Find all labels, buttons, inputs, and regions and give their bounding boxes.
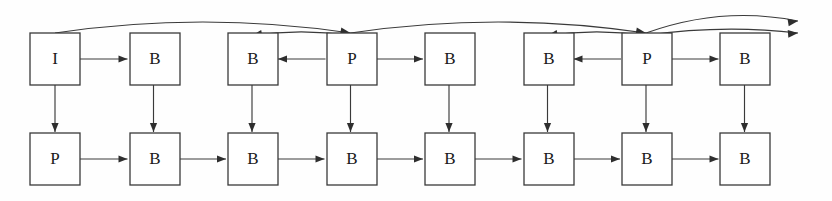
node-bottom-row-1-b[interactable]: B [130, 133, 180, 185]
node-label: B [641, 149, 652, 168]
arrowhead-top-row-3-2 [278, 55, 287, 62]
arrowhead-vertical-col-0 [51, 123, 58, 132]
node-bottom-row-6-b[interactable]: B [622, 133, 672, 185]
node-top-row-3-p[interactable]: P [327, 33, 377, 85]
node-label: B [149, 149, 160, 168]
node-label: B [149, 49, 160, 68]
arrowhead-vertical-col-7 [741, 123, 748, 132]
arrowhead-bottom-row-1-2 [217, 155, 226, 162]
arrowhead-top-row-3-4 [414, 55, 423, 62]
arrowhead-top-row-6-5 [574, 55, 583, 62]
arrowhead-top-row-6-7 [710, 55, 719, 62]
arrowhead-bottom-row-6-7 [710, 155, 719, 162]
node-top-row-1-b[interactable]: B [130, 33, 180, 85]
node-bottom-row-0-p[interactable]: P [30, 133, 80, 185]
arrowhead-arc-p2-to-right-b [788, 29, 799, 37]
node-label: B [346, 149, 357, 168]
node-bottom-row-3-b[interactable]: B [327, 133, 377, 185]
node-bottom-row-4-b[interactable]: B [425, 133, 475, 185]
arrowhead-arc-p2-to-right-a [788, 17, 799, 26]
node-box-layer: IBBPBBPBPBBBBBBB [30, 33, 770, 185]
arrowhead-bottom-row-4-5 [513, 155, 522, 162]
arrowhead-bottom-row-5-6 [611, 155, 620, 162]
node-top-row-5-b[interactable]: B [524, 33, 574, 85]
arrowhead-top-row-0-1 [119, 55, 128, 62]
arrowhead-vertical-col-5 [544, 123, 551, 132]
arrowhead-bottom-row-2-3 [316, 155, 325, 162]
node-bottom-row-5-b[interactable]: B [524, 133, 574, 185]
arrowhead-vertical-col-2 [248, 123, 255, 132]
node-top-row-0-i[interactable]: I [30, 33, 80, 85]
node-label: B [543, 149, 554, 168]
node-label: B [444, 149, 455, 168]
frame-dependency-diagram: IBBPBBPBPBBBBBBB [0, 0, 832, 201]
node-label: B [444, 49, 455, 68]
node-label: B [247, 49, 258, 68]
node-label: I [52, 49, 58, 68]
node-label: B [543, 49, 554, 68]
arrowhead-vertical-col-6 [642, 123, 649, 132]
node-top-row-4-b[interactable]: B [425, 33, 475, 85]
node-bottom-row-2-b[interactable]: B [228, 133, 278, 185]
node-label: P [50, 149, 59, 168]
node-label: P [347, 49, 356, 68]
node-label: P [642, 49, 651, 68]
node-top-row-2-b[interactable]: B [228, 33, 278, 85]
node-label: B [247, 149, 258, 168]
node-top-row-6-p[interactable]: P [622, 33, 672, 85]
node-top-row-7-b[interactable]: B [720, 33, 770, 85]
node-label: B [739, 49, 750, 68]
arc-p1-to-p2 [351, 22, 647, 33]
arrowhead-bottom-row-0-1 [119, 155, 128, 162]
arrowhead-vertical-col-1 [150, 123, 157, 132]
arrowhead-vertical-col-3 [347, 123, 354, 132]
node-label: B [739, 149, 750, 168]
arrowhead-vertical-col-4 [445, 123, 452, 132]
diagram-canvas: IBBPBBPBPBBBBBBB [0, 0, 832, 201]
arrowhead-bottom-row-3-4 [414, 155, 423, 162]
node-bottom-row-7-b[interactable]: B [720, 133, 770, 185]
arc-i-to-p1 [55, 22, 351, 33]
